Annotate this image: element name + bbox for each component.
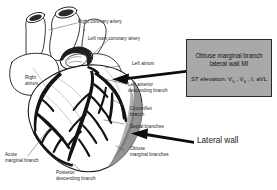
lead-v6-subscript: 6 [244, 79, 246, 84]
lateral-wall-mi-callout-box: Obtuse marginal branch lateral wall MI S… [186, 39, 272, 97]
lead-v5-subscript: 5 [232, 79, 234, 84]
label-lateral-wall: Lateral wall [197, 136, 238, 145]
lead-separator: , V [235, 75, 244, 82]
label-left-main-coronary-artery: Left main coronary artery [88, 36, 140, 42]
label-right-atrium: Right atrium [25, 75, 38, 86]
callout-arrow-shaft [124, 70, 186, 80]
callout-title: Obtuse marginal branch lateral wall MI [195, 52, 262, 69]
lateral-wall-arrow [131, 128, 194, 143]
label-posterior-descending-branch: Posterior descending branch [56, 170, 96, 181]
label-right-coronary-artery: Right coronary artery [78, 19, 122, 25]
callout-content: Obtuse marginal branch lateral wall MI S… [187, 40, 271, 96]
label-obtuse-marginal-branches: Obtuse marginal branches [130, 146, 169, 157]
label-circumflex-branch: Circumflex branch [130, 106, 152, 117]
figure-canvas: Right coronary artery Left main coronary… [0, 0, 277, 190]
st-prefix: ST elevation: V [191, 75, 232, 82]
label-acute-marginal-branch: Acute marginal branch [5, 152, 39, 163]
label-septal-branches: Septal branches [130, 124, 164, 130]
lateral-wall-arrow-shaft [143, 133, 194, 144]
callout-st-elevation: ST elevation: V5 , V6 , I, aVL [191, 75, 267, 84]
lead-tail: , I, aVL [246, 75, 267, 82]
label-left-anterior-descending-branch: Left anterior descending branch [128, 82, 168, 93]
label-left-atrium: Left atrium [132, 61, 154, 67]
